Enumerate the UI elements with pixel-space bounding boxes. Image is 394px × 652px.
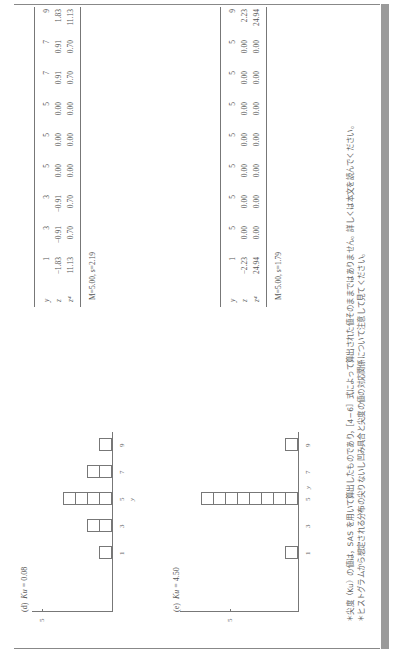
histogram-d-bar-5 <box>48 491 112 505</box>
histogram-e-x-tick-1: 1 <box>304 552 312 556</box>
histogram-d-x-tick-9: 9 <box>118 444 126 448</box>
histogram-d-bar-3 <box>48 518 112 532</box>
histogram-e-bar-1 <box>186 545 298 559</box>
histogram-d-y-tick <box>42 609 43 612</box>
histogram-d-bar-9 <box>48 437 112 451</box>
panel-d-label: (d) <box>20 603 29 612</box>
histogram-d-x-tick-7: 7 <box>118 471 126 475</box>
table-e-row-z4: z⁴ 24.940.000.000.000.000.000.000.0024.9… <box>250 9 262 302</box>
panel-d-stat-name: Ku <box>20 589 29 598</box>
table-e-top-rule <box>220 7 221 307</box>
histogram-e-x-tick-5: 5 <box>304 498 312 502</box>
panel-e-stat-name: Ku <box>172 590 181 599</box>
histogram-d-y-axis <box>32 611 112 612</box>
table-d-row-y: y 133555779 <box>40 9 52 302</box>
histogram-e-y-axis <box>180 611 298 612</box>
histogram-d-x-axis <box>112 432 113 612</box>
histogram-e-x-axis <box>298 432 299 612</box>
panel-d-stat-value: = 0.08 <box>20 567 29 588</box>
histogram-d-x-label: y <box>128 498 136 501</box>
table-e-bottom-rule <box>266 7 267 307</box>
table-e-stats: M=5.00, s=1.79 <box>274 252 283 300</box>
panel-d-title: (d) Ku = 0.08 <box>20 567 29 612</box>
histogram-e-bar-9 <box>186 437 298 451</box>
histogram-e-x-label: y <box>304 486 312 489</box>
footnote-histogram: ＊ヒストグラムから想定される分布の尖りないし凹み具合と尖度の値の対応関係について… <box>355 250 366 622</box>
table-e-row-y: y 155555559 <box>226 9 238 302</box>
table-d-row-z4: z⁴ 11.130.700.700.000.000.000.700.7011.1… <box>64 9 76 302</box>
histogram-d-x-tick-1: 1 <box>118 552 126 556</box>
histogram-e-y-tick <box>230 609 231 612</box>
histogram-d-y-tick-label: 5 <box>38 619 46 623</box>
histogram-e-y-tick-label: 5 <box>226 619 234 623</box>
footnote-kurtosis: ＊尖度（Ku）の値は，SAS を用いて算出したものであり，［4−6］式によって算… <box>344 122 355 622</box>
table-e: y 155555559 z −2.230.000.000.000.000.000… <box>226 9 262 302</box>
histogram-e-x-tick-3: 3 <box>304 525 312 529</box>
histogram-d-x-tick-5: 5 <box>118 498 126 502</box>
histogram-d-bar-7 <box>48 464 112 478</box>
table-d-stats: M=5.00, s=2.19 <box>88 252 97 300</box>
table-d: y 133555779 z −1.83−0.91−0.910.000.000.0… <box>40 9 76 302</box>
histogram-e-bar-5 <box>186 491 298 505</box>
table-d-top-rule <box>34 7 35 307</box>
histogram-d-x-tick-3: 3 <box>118 525 126 529</box>
histogram-d-bar-1 <box>48 545 112 559</box>
panel-e-stat-value: = 4.50 <box>172 567 181 588</box>
table-e-row-z: z −2.230.000.000.000.000.000.000.002.23 <box>238 9 250 302</box>
histogram-e-x-tick-9: 9 <box>304 444 312 448</box>
histogram-e-x-tick-7: 7 <box>304 471 312 475</box>
table-d-bottom-rule <box>80 7 81 307</box>
table-d-row-z: z −1.83−0.91−0.910.000.000.000.910.911.8… <box>52 9 64 302</box>
panel-e-title: (e) Ku = 4.50 <box>172 567 181 612</box>
rotated-page-content: (d) Ku = 0.08 5 1 3 5 7 9 y y 133555779 … <box>0 0 394 652</box>
